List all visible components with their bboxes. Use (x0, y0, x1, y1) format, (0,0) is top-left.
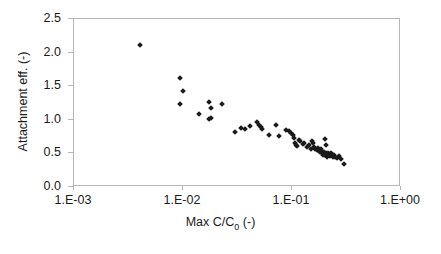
y-tick-label: 0.5 (44, 146, 61, 159)
y-tick-label: 2.0 (44, 46, 61, 59)
data-point (207, 99, 213, 105)
x-tick-label: 1.E-03 (55, 194, 92, 207)
data-point (180, 88, 186, 94)
data-point (220, 102, 226, 108)
data-point (323, 142, 329, 148)
data-point (322, 136, 328, 142)
data-point (209, 105, 215, 111)
x-axis-title: Max C/C0 (-) (0, 216, 441, 234)
data-point (137, 42, 143, 48)
data-point (247, 123, 253, 129)
x-tick-label: 1.E-02 (164, 194, 201, 207)
x-tick-label: 1.E-01 (273, 194, 310, 207)
x-tick-mark (291, 186, 292, 190)
data-point (267, 132, 273, 138)
x-axis: 1.E-031.E-021.E-011.E+00 (0, 190, 441, 210)
data-point (177, 75, 183, 81)
x-axis-title-subscript: 0 (234, 222, 239, 232)
data-point (274, 122, 280, 128)
plot-area (73, 18, 400, 186)
data-point (341, 161, 347, 167)
y-axis-title: Attachment eff. (-) (17, 17, 30, 187)
data-point (294, 143, 300, 149)
data-points-layer (74, 19, 399, 185)
data-point (196, 111, 202, 117)
data-point (177, 102, 183, 108)
x-tick-label: 1.E+00 (380, 194, 420, 207)
x-tick-mark (182, 186, 183, 190)
data-point (259, 126, 265, 132)
scatter-chart-figure: Attachment eff. (-) 0.00.51.01.52.02.5 1… (0, 0, 441, 254)
y-tick-label: 2.5 (44, 12, 61, 25)
y-tick-label: 1.0 (44, 113, 61, 126)
x-tick-mark (73, 186, 74, 190)
y-tick-label: 1.5 (44, 79, 61, 92)
data-point (232, 129, 238, 135)
data-point (276, 133, 282, 139)
x-tick-mark (400, 186, 401, 190)
